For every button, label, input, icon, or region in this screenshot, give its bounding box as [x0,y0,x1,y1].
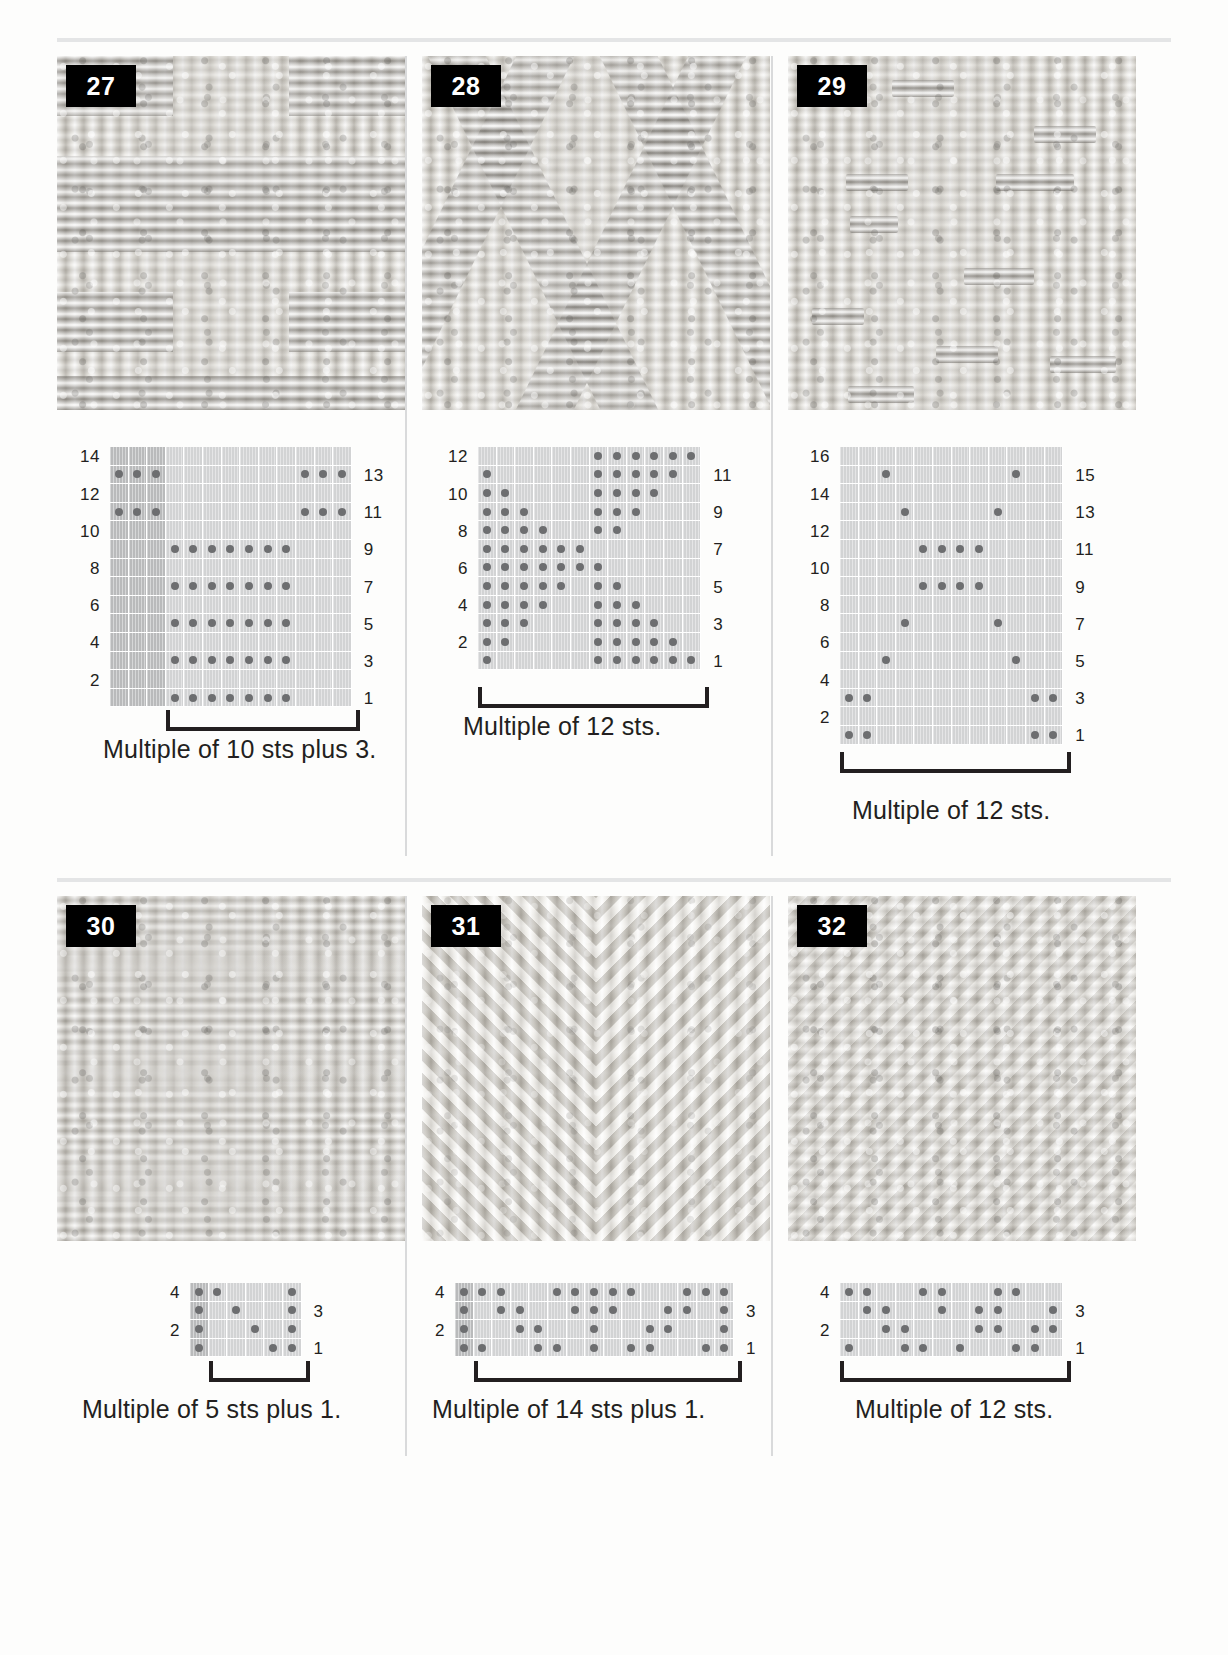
purl-dot [288,1306,296,1314]
chart-cell [492,1302,511,1321]
chart-cell [952,652,971,671]
chart-cell [1045,447,1064,466]
chart-cell [1026,466,1045,485]
swatch-photo-28: 28 [422,56,770,410]
row-number-right: 3 [746,1303,756,1320]
chart-cell [571,447,590,466]
purl-dot [483,656,491,664]
row-number-left: 4 [148,1284,180,1301]
chart-cell [222,652,241,671]
panel-31: 31 [422,896,770,1241]
chart-cell [184,540,203,559]
chart-cell [333,484,352,503]
purl-dot [594,619,602,627]
chart-cell [645,633,664,652]
chart-cell [184,503,203,522]
chart-cell [970,726,989,745]
row-number-left: 2 [436,634,468,651]
chart-cell [877,726,896,745]
purl-dot [338,508,346,516]
chart-cell [129,670,148,689]
chart-cell [664,521,683,540]
purl-dot [501,545,509,553]
purl-dot [632,452,640,460]
chart-cell [190,1302,209,1321]
chart-cell [259,521,278,540]
purl-dot [460,1344,468,1352]
chart-cell [184,652,203,671]
chart-cell [110,484,129,503]
purl-dot [975,1325,983,1333]
purl-dot [863,731,871,739]
chart-cell [914,1320,933,1339]
chart-cell [315,577,334,596]
purl-dot [650,452,658,460]
chart-cell [110,633,129,652]
chart-cell [989,1302,1008,1321]
chart-cell [933,447,952,466]
purl-dot [613,638,621,646]
chart-cell [1007,633,1026,652]
purl-dot [664,1306,672,1314]
chart-cell [859,1283,878,1302]
chart-cell [1007,1339,1026,1358]
chart-cell [315,466,334,485]
purl-dot [975,1306,983,1314]
chart-cell [1026,1302,1045,1321]
purl-dot [171,694,179,702]
chart-cell [933,652,952,671]
chart-cell [914,484,933,503]
row-number-right: 1 [314,1340,324,1357]
chart-cell [683,559,702,578]
chart-cell [222,521,241,540]
chart-cell [697,1283,716,1302]
purl-dot [557,545,565,553]
chart-cell [933,596,952,615]
chart-cell [1007,670,1026,689]
row-number-right: 3 [314,1303,324,1320]
chart-cell [952,1283,971,1302]
chart-cell [147,466,166,485]
chart-cell [989,596,1008,615]
chart-cell [970,1283,989,1302]
chart-cell [683,633,702,652]
purl-dot [594,601,602,609]
chart-cell [534,484,553,503]
chart-cell [1007,577,1026,596]
chart-cell [859,540,878,559]
chart-cell [952,1302,971,1321]
chart-cell [970,521,989,540]
chart-cell [715,1302,734,1321]
chart-cell [896,521,915,540]
chart-cell [627,447,646,466]
purl-dot [901,1325,909,1333]
row-number-right: 7 [713,541,723,558]
chart-cell [203,466,222,485]
purl-dot [301,470,309,478]
chart-cell [989,689,1008,708]
chart-cell [914,596,933,615]
purl-dot [501,526,509,534]
purl-dot [590,1288,598,1296]
chart-cell [315,559,334,578]
chart-cell [952,614,971,633]
purl-dot [226,545,234,553]
row-number-left: 8 [68,560,100,577]
purl-dot [627,1344,635,1352]
chart-cell [203,503,222,522]
purl-dot [483,545,491,553]
chart-cell [877,577,896,596]
chart-cell [296,596,315,615]
purl-dot [483,563,491,571]
purl-dot [319,508,327,516]
row-number-right: 11 [1075,541,1094,558]
purl-dot [632,489,640,497]
purl-dot [845,1288,853,1296]
chart-cell [914,447,933,466]
chart-cell [110,614,129,633]
chart-cell [952,466,971,485]
chart-cell [1045,726,1064,745]
chart-cell [608,447,627,466]
chart-cell [952,521,971,540]
purl-dot [609,1288,617,1296]
